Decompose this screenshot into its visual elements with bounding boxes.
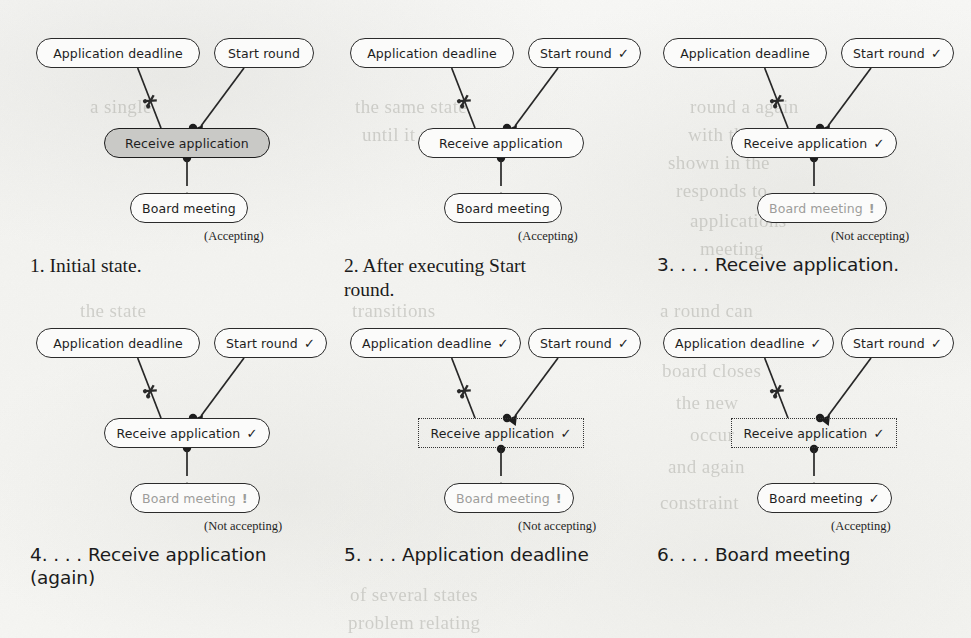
panel-caption: 6. . . . Board meeting — [657, 544, 962, 567]
node-board-meeting[interactable]: Board meeting! — [444, 483, 574, 513]
inhibitor-cut-marker — [456, 384, 472, 399]
workflow-diagram: Application deadlineStart round✓Receive … — [332, 28, 647, 228]
node-board-meeting[interactable]: Board meeting — [130, 193, 248, 223]
node-start-round[interactable]: Start round✓ — [841, 38, 954, 68]
arc-application-deadline-to-receive — [138, 68, 161, 128]
state-panel: Application deadlineStart round✓Receive … — [645, 28, 960, 228]
inhibitor-cut-marker — [456, 94, 472, 109]
arc-start-round-to-receive — [201, 358, 244, 416]
warning-bang-icon: ! — [869, 202, 875, 215]
node-board-meeting[interactable]: Board meeting! — [757, 193, 887, 223]
node-receive-application[interactable]: Receive application✓ — [418, 418, 584, 448]
inhibitor-cut-marker — [142, 94, 158, 109]
state-sequence-figure: Application deadlineStart roundReceive a… — [0, 0, 971, 638]
check-icon: ✓ — [618, 337, 629, 350]
node-label: Receive application — [125, 136, 249, 151]
workflow-diagram: Application deadlineStart round✓Receive … — [18, 318, 333, 518]
node-label: Receive application — [431, 426, 555, 441]
state-panel: Application deadline✓Start round✓Receive… — [645, 318, 960, 518]
node-label: Application deadline — [53, 46, 183, 61]
state-panel: Application deadline✓Start round✓Receive… — [332, 318, 647, 518]
node-start-round[interactable]: Start round✓ — [841, 328, 954, 358]
node-label: Receive application — [744, 136, 868, 151]
accepting-status-label: (Accepting) — [204, 229, 264, 244]
arc-application-deadline-to-receive — [452, 358, 475, 418]
check-icon: ✓ — [246, 427, 257, 440]
node-label: Board meeting — [142, 491, 236, 506]
node-receive-application[interactable]: Receive application — [418, 128, 584, 158]
check-icon: ✓ — [498, 337, 509, 350]
arc-start-round-to-receive — [515, 358, 558, 416]
node-board-meeting[interactable]: Board meeting✓ — [757, 483, 892, 513]
node-start-round[interactable]: Start round — [214, 38, 314, 68]
arc-start-round-to-receive — [201, 68, 244, 126]
workflow-diagram: Application deadline✓Start round✓Receive… — [645, 318, 960, 518]
workflow-diagram: Application deadline✓Start round✓Receive… — [332, 318, 647, 518]
workflow-diagram: Application deadlineStart roundReceive a… — [18, 28, 333, 228]
node-start-round[interactable]: Start round✓ — [528, 328, 641, 358]
node-application-deadline[interactable]: Application deadline — [663, 38, 827, 68]
warning-bang-icon: ! — [556, 492, 562, 505]
check-icon: ✓ — [618, 47, 629, 60]
panel-caption: 1. Initial state. — [30, 254, 335, 278]
node-receive-application[interactable]: Receive application✓ — [731, 418, 897, 448]
node-receive-application[interactable]: Receive application✓ — [731, 128, 897, 158]
warning-bang-icon: ! — [242, 492, 248, 505]
arc-application-deadline-to-receive — [765, 68, 788, 128]
node-label: Start round — [853, 336, 925, 351]
panel-caption: 4. . . . Receive application (again) — [30, 544, 335, 589]
node-board-meeting[interactable]: Board meeting — [444, 193, 562, 223]
panel-caption: 3. . . . Receive application. — [657, 254, 962, 277]
arc-application-deadline-to-receive — [452, 68, 475, 128]
node-board-meeting[interactable]: Board meeting! — [130, 483, 260, 513]
node-start-round[interactable]: Start round✓ — [214, 328, 327, 358]
node-label: Receive application — [117, 426, 241, 441]
node-application-deadline[interactable]: Application deadline✓ — [663, 328, 834, 358]
inhibitor-cut-marker — [142, 384, 158, 399]
panel-caption: 2. After executing Start round. — [344, 254, 649, 302]
node-label: Receive application — [439, 136, 563, 151]
check-icon: ✓ — [931, 47, 942, 60]
node-label: Board meeting — [769, 201, 863, 216]
node-label: Application deadline — [53, 336, 183, 351]
node-label: Application deadline — [362, 336, 492, 351]
accepting-status-label: (Not accepting) — [518, 519, 596, 534]
check-icon: ✓ — [931, 337, 942, 350]
node-label: Start round — [853, 46, 925, 61]
node-label: Receive application — [744, 426, 868, 441]
node-label: Application deadline — [675, 336, 805, 351]
node-receive-application[interactable]: Receive application✓ — [104, 418, 270, 448]
node-label: Board meeting — [456, 201, 550, 216]
check-icon: ✓ — [304, 337, 315, 350]
node-label: Board meeting — [769, 491, 863, 506]
panel-caption: 5. . . . Application deadline — [344, 544, 649, 567]
inhibitor-cut-marker — [769, 94, 785, 109]
node-receive-application[interactable]: Receive application — [104, 128, 270, 158]
arc-start-round-to-receive — [828, 358, 871, 416]
accepting-status-label: (Not accepting) — [204, 519, 282, 534]
node-label: Start round — [540, 46, 612, 61]
node-application-deadline[interactable]: Application deadline — [36, 38, 200, 68]
check-icon: ✓ — [873, 137, 884, 150]
node-application-deadline[interactable]: Application deadline✓ — [350, 328, 521, 358]
accepting-status-label: (Accepting) — [831, 519, 891, 534]
arc-start-round-to-receive — [828, 68, 871, 126]
node-application-deadline[interactable]: Application deadline — [350, 38, 514, 68]
check-icon: ✓ — [869, 492, 880, 505]
node-start-round[interactable]: Start round✓ — [528, 38, 641, 68]
node-label: Application deadline — [680, 46, 810, 61]
arc-start-round-to-receive — [515, 68, 558, 126]
node-application-deadline[interactable]: Application deadline — [36, 328, 200, 358]
accepting-status-label: (Accepting) — [518, 229, 578, 244]
check-icon: ✓ — [811, 337, 822, 350]
inhibitor-cut-marker — [769, 384, 785, 399]
node-label: Board meeting — [456, 491, 550, 506]
node-label: Start round — [540, 336, 612, 351]
arc-application-deadline-to-receive — [765, 358, 788, 418]
state-panel: Application deadlineStart round✓Receive … — [332, 28, 647, 228]
accepting-status-label: (Not accepting) — [831, 229, 909, 244]
node-label: Start round — [226, 336, 298, 351]
state-panel: Application deadlineStart round✓Receive … — [18, 318, 333, 518]
arc-application-deadline-to-receive — [138, 358, 161, 418]
workflow-diagram: Application deadlineStart round✓Receive … — [645, 28, 960, 228]
